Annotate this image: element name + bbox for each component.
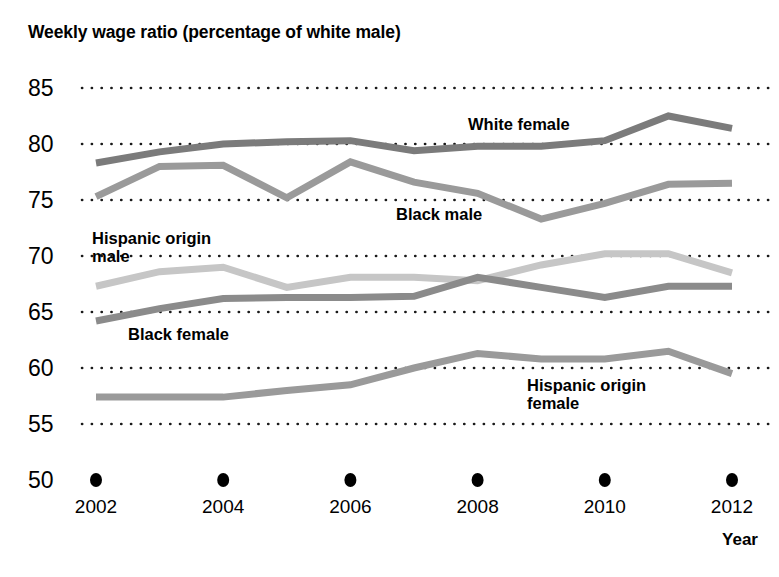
x-axis-tick-dot bbox=[726, 473, 738, 487]
x-axis-title: Year bbox=[722, 530, 758, 549]
series-label-hispanic-origin-male: Hispanic originmale bbox=[92, 229, 211, 266]
plot-area: 5055606570758085 20022004200620082010201… bbox=[0, 0, 779, 577]
y-axis-tick-label: 85 bbox=[28, 75, 54, 101]
x-axis-tick-label: 2006 bbox=[329, 496, 371, 517]
x-axis-labels-group: 200220042006200820102012 bbox=[75, 496, 753, 517]
y-axis-tick-label: 65 bbox=[28, 299, 54, 325]
y-axis-tick-label: 75 bbox=[28, 187, 54, 213]
x-axis-tick-dots-group bbox=[90, 473, 738, 487]
y-axis-tick-label: 50 bbox=[28, 467, 54, 493]
wage-ratio-line-chart: Weekly wage ratio (percentage of white m… bbox=[0, 0, 779, 577]
x-axis-tick-dot bbox=[217, 473, 229, 487]
series-label-black-male: Black male bbox=[396, 205, 482, 223]
y-axis-tick-label: 80 bbox=[28, 131, 54, 157]
series-label-hispanic-origin-female: Hispanic originfemale bbox=[527, 376, 646, 413]
series-line-white-female bbox=[96, 116, 732, 163]
y-axis-labels-group: 5055606570758085 bbox=[28, 75, 54, 493]
x-axis-tick-label: 2008 bbox=[456, 496, 498, 517]
x-axis-tick-label: 2010 bbox=[584, 496, 626, 517]
y-axis-tick-label: 60 bbox=[28, 355, 54, 381]
y-axis-tick-label: 55 bbox=[28, 411, 54, 437]
x-axis-tick-label: 2002 bbox=[75, 496, 117, 517]
x-axis-tick-dot bbox=[90, 473, 102, 487]
x-axis-tick-dot bbox=[344, 473, 356, 487]
x-axis-tick-dot bbox=[472, 473, 484, 487]
series-label-white-female: White female bbox=[468, 115, 570, 133]
x-axis-tick-dot bbox=[599, 473, 611, 487]
series-label-black-female: Black female bbox=[128, 325, 229, 343]
y-axis-tick-label: 70 bbox=[28, 243, 54, 269]
x-axis-tick-label: 2004 bbox=[202, 496, 245, 517]
series-line-black-female bbox=[96, 277, 732, 321]
x-axis-tick-label: 2012 bbox=[711, 496, 753, 517]
